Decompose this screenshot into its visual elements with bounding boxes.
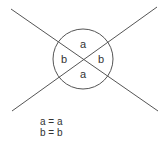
vertical-angles-diagram: a a b b [0,0,167,146]
equation-a: a = a [40,117,63,127]
angle-label-right: b [98,53,104,65]
angle-label-top: a [80,38,87,50]
equation-b: b = b [40,128,63,138]
angle-label-bottom: a [80,68,87,80]
angle-label-left: b [61,53,67,65]
